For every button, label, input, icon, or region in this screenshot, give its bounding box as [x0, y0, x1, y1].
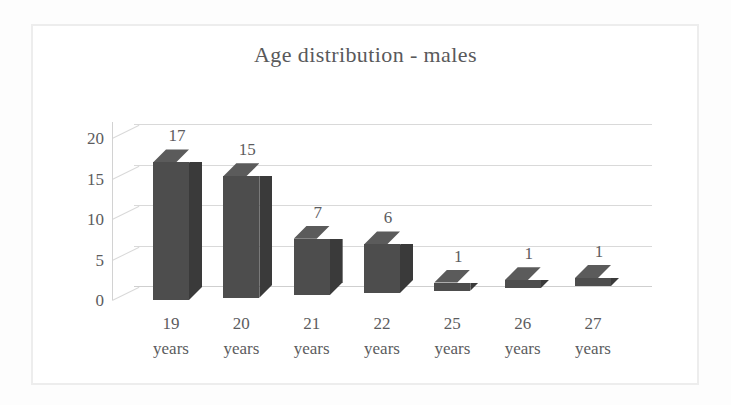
depth-line-15	[112, 165, 139, 179]
category-age-value: 22	[345, 312, 419, 337]
x-axis-category-label: 25years	[415, 312, 489, 361]
bar-front-face	[505, 280, 541, 288]
category-unit: years	[556, 337, 630, 362]
bar-front-face	[434, 283, 470, 291]
x-axis-category-label: 21years	[275, 312, 349, 361]
category-unit: years	[134, 337, 208, 362]
bar-value-label: 1	[428, 248, 488, 265]
y-axis-line	[112, 122, 113, 300]
bar-side-face	[189, 162, 202, 300]
x-axis-category-labels: 19years20years21years22years25years26yea…	[112, 312, 672, 372]
category-unit: years	[204, 337, 278, 362]
y-axis-tick-labels: 05101520	[58, 108, 104, 308]
bar-side-face	[259, 176, 272, 297]
gridline-20	[134, 124, 652, 125]
bar-top-face	[364, 231, 400, 244]
bar-column	[153, 148, 189, 300]
category-unit: years	[486, 337, 560, 362]
bar-top-face	[505, 267, 541, 280]
y-axis-tick-5: 5	[64, 252, 104, 269]
category-unit: years	[275, 337, 349, 362]
x-axis-category-label: 22years	[345, 312, 419, 361]
x-axis-category-label: 26years	[486, 312, 560, 361]
bar-top-face	[223, 163, 259, 176]
category-age-value: 25	[415, 312, 489, 337]
bar-column	[575, 264, 611, 286]
category-age-value: 27	[556, 312, 630, 337]
category-unit: years	[345, 337, 419, 362]
bar-front-face	[294, 239, 330, 296]
bar-value-label: 17	[147, 127, 207, 144]
category-age-value: 26	[486, 312, 560, 337]
depth-line-10	[112, 206, 139, 220]
gridline-10	[134, 205, 652, 206]
chart-title: Age distribution - males	[0, 42, 731, 68]
x-axis-category-label: 20years	[204, 312, 278, 361]
bar-value-label: 7	[288, 204, 348, 221]
y-axis-tick-10: 10	[64, 211, 104, 228]
category-age-value: 19	[134, 312, 208, 337]
bar-column	[223, 162, 259, 297]
y-axis-tick-20: 20	[64, 130, 104, 147]
x-axis-category-label: 19years	[134, 312, 208, 361]
bar-front-face	[364, 244, 400, 293]
x-axis-category-label: 27years	[556, 312, 630, 361]
plot-area: 171576111	[112, 108, 652, 300]
bar-column	[434, 269, 470, 291]
y-axis-tick-15: 15	[64, 171, 104, 188]
bar-column	[294, 225, 330, 296]
bar-front-face	[153, 162, 189, 300]
gridline-15	[134, 165, 652, 166]
bar-value-label: 15	[217, 141, 277, 158]
bar-top-face	[575, 265, 611, 278]
depth-line-5	[112, 246, 139, 260]
bar-top-face	[434, 270, 470, 283]
category-age-value: 21	[275, 312, 349, 337]
bar-value-label: 1	[499, 245, 559, 262]
scanned-figure-page: Age distribution - males 05101520 171576…	[0, 0, 731, 405]
chart-side-wall	[112, 108, 136, 300]
y-axis-tick-0: 0	[64, 292, 104, 309]
bar-front-face	[223, 176, 259, 297]
category-age-value: 20	[204, 312, 278, 337]
bar-column	[364, 230, 400, 293]
bar-value-label: 1	[569, 243, 629, 260]
depth-line-0	[112, 287, 139, 301]
bar-value-label: 6	[358, 209, 418, 226]
bar-column	[505, 266, 541, 288]
category-unit: years	[415, 337, 489, 362]
depth-line-20	[112, 125, 139, 139]
bar-top-face	[153, 149, 189, 162]
bar-front-face	[575, 278, 611, 286]
bar-top-face	[294, 226, 330, 239]
